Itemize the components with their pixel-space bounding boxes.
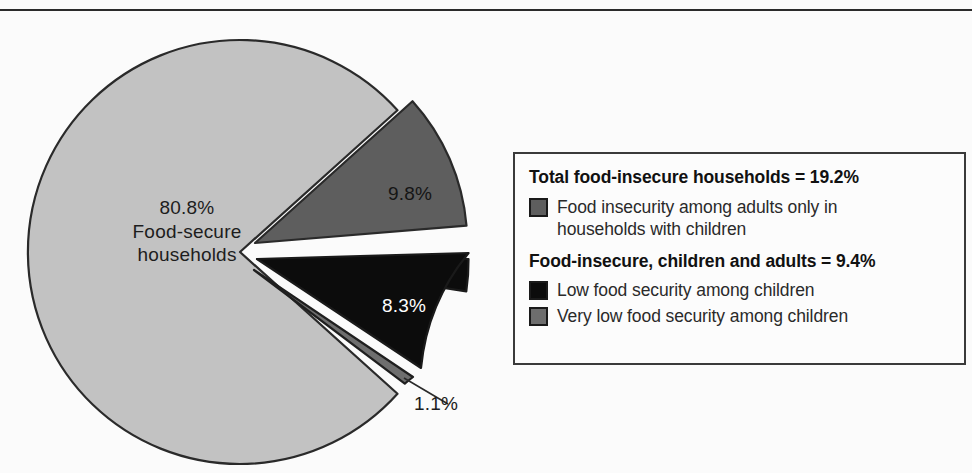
legend-swatch-very-low-food-security <box>529 307 548 326</box>
pie-label-food-secure: 80.8% Food-secure households <box>92 196 282 267</box>
legend-item-very-low-food-security[interactable]: Very low food security among children <box>529 305 950 327</box>
legend-label-low-food-security: Low food security among children <box>557 279 815 301</box>
chart-page: 80.8% Food-secure households 9.8% 8.3% 1… <box>0 0 972 473</box>
legend-label-adults-only: Food insecurity among adults only in hou… <box>557 196 837 241</box>
legend-label-adults-only-line1: Food insecurity among adults only in <box>557 197 837 217</box>
legend-heading-children-adults: Food-insecure, children and adults = 9.4… <box>529 251 950 272</box>
legend-item-adults-only[interactable]: Food insecurity among adults only in hou… <box>529 196 950 241</box>
legend-label-very-low-food-security: Very low food security among children <box>557 305 848 327</box>
pie-label-food-secure-line1: Food-secure <box>92 220 282 244</box>
legend-swatch-adults-only <box>529 198 548 217</box>
pie-label-adults-only: 9.8% <box>388 182 432 206</box>
legend-heading-total: Total food-insecure households = 19.2% <box>529 167 950 188</box>
pie-label-low-food-security-children: 8.3% <box>382 294 426 318</box>
legend-item-low-food-security[interactable]: Low food security among children <box>529 279 950 301</box>
pie-label-food-secure-line2: households <box>92 243 282 267</box>
legend-box: Total food-insecure households = 19.2% F… <box>513 152 966 365</box>
pie-label-very-low-food-security-children: 1.1% <box>414 392 458 416</box>
legend-label-adults-only-line2: households with children <box>557 219 746 239</box>
pie-label-food-secure-percent: 80.8% <box>92 196 282 220</box>
legend-swatch-low-food-security <box>529 281 548 300</box>
